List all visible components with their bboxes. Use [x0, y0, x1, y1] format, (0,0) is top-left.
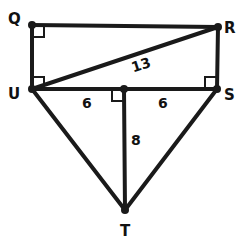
measure-MT: 8 — [131, 132, 141, 148]
label-U: U — [8, 85, 20, 103]
segment-UT — [32, 89, 125, 210]
measure-UM: 6 — [82, 95, 92, 111]
measure-MS: 6 — [158, 95, 168, 111]
point-U — [28, 85, 36, 93]
segment-MT-altitude — [124, 89, 125, 210]
label-T: T — [120, 222, 131, 240]
segment-ST — [125, 89, 217, 210]
segment-QR — [32, 25, 218, 27]
point-S — [213, 85, 221, 93]
label-R: R — [224, 19, 236, 37]
segment-UR-diagonal — [32, 27, 218, 89]
label-S: S — [224, 86, 235, 104]
point-R — [214, 23, 222, 31]
point-Q — [28, 21, 36, 29]
point-M — [120, 85, 128, 93]
geometry-diagram: Q R U S T 13 6 6 8 — [0, 0, 242, 240]
label-Q: Q — [8, 10, 21, 28]
point-T — [121, 206, 129, 214]
segment-RS — [217, 27, 218, 89]
